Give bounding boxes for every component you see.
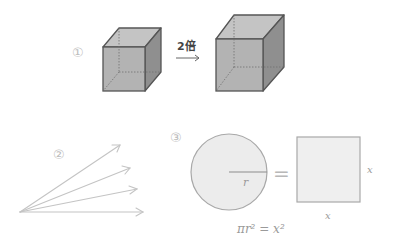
panel-2: ② (20, 145, 143, 216)
equals-sign: = (273, 161, 290, 185)
panel-1-marker: ① (72, 45, 84, 60)
large-cube (216, 15, 284, 91)
small-cube (103, 28, 161, 91)
square-side-label-right: x (367, 164, 373, 175)
large-cube-front-face (216, 39, 263, 91)
scale-arrow (176, 55, 199, 61)
panel-1: ① 2倍 (72, 15, 284, 91)
area-formula: πr² = x² (236, 222, 285, 236)
scale-factor-label: 2倍 (177, 39, 196, 53)
arrow-fan (20, 145, 143, 216)
diagram-canvas: ① 2倍 (0, 0, 394, 252)
panel-2-marker: ② (53, 147, 65, 162)
square (297, 137, 360, 202)
panel-3-marker: ③ (170, 130, 182, 145)
small-cube-front-face (103, 47, 145, 91)
panel-3: ③ r = x x πr² = x² (170, 130, 373, 236)
radius-label: r (243, 176, 249, 189)
square-side-label-bottom: x (325, 210, 331, 221)
